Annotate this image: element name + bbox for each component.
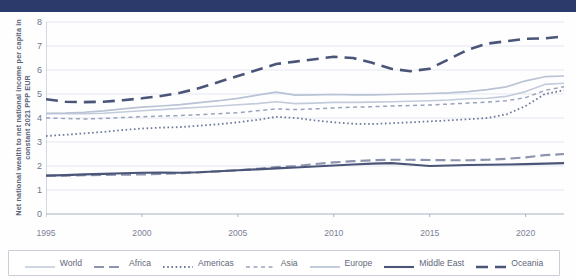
y-tick-label: 1 <box>37 185 42 195</box>
x-tick-label: 1995 <box>36 228 55 238</box>
y-tick-label: 6 <box>37 65 42 75</box>
legend-item-africa[interactable]: Africa <box>94 258 151 268</box>
legend-item-world[interactable]: World <box>25 258 82 268</box>
legend-item-middle-east[interactable]: Middle East <box>384 258 464 268</box>
line-chart-svg <box>46 14 568 224</box>
legend-swatch-icon <box>476 258 506 268</box>
x-tick-label: 2000 <box>132 228 151 238</box>
legend-swatch-icon <box>163 258 193 268</box>
legend-swatch-icon <box>25 258 55 268</box>
y-axis-label: Net national wealth to net national inco… <box>14 17 33 217</box>
chart-page: Net national wealth to net national inco… <box>0 12 576 279</box>
chart-legend: WorldAfricaAmericasAsiaEuropeMiddle East… <box>8 250 560 276</box>
y-tick-label: 0 <box>37 209 42 219</box>
legend-swatch-icon <box>384 258 414 268</box>
plot-area: 012345678 199520002005201020152020 <box>46 14 568 224</box>
legend-item-asia[interactable]: Asia <box>246 258 298 268</box>
legend-item-europe[interactable]: Europe <box>310 258 373 268</box>
legend-label: Middle East <box>419 258 464 268</box>
x-tick-label: 2010 <box>324 228 343 238</box>
legend-item-americas[interactable]: Americas <box>163 258 234 268</box>
legend-swatch-icon <box>94 258 124 268</box>
legend-swatch-icon <box>246 258 276 268</box>
x-tick-label: 2005 <box>228 228 247 238</box>
x-tick-label: 2020 <box>516 228 535 238</box>
y-tick-label: 8 <box>37 17 42 27</box>
legend-label: Oceania <box>511 258 543 268</box>
y-tick-label: 7 <box>37 41 42 51</box>
legend-item-oceania[interactable]: Oceania <box>476 258 543 268</box>
legend-label: Africa <box>129 258 151 268</box>
legend-label: World <box>60 258 82 268</box>
series-line-americas <box>46 90 564 136</box>
x-tick-label: 2015 <box>420 228 439 238</box>
axis-lines-group <box>46 22 564 217</box>
series-line-europe <box>46 76 564 114</box>
legend-swatch-icon <box>310 258 340 268</box>
y-tick-label: 4 <box>37 113 42 123</box>
y-tick-label: 5 <box>37 89 42 99</box>
y-tick-label: 2 <box>37 161 42 171</box>
y-tick-label: 3 <box>37 137 42 147</box>
legend-label: Americas <box>198 258 234 268</box>
top-banner-bar <box>0 0 576 12</box>
legend-label: Asia <box>281 258 298 268</box>
legend-label: Europe <box>345 258 373 268</box>
series-group <box>46 36 564 175</box>
